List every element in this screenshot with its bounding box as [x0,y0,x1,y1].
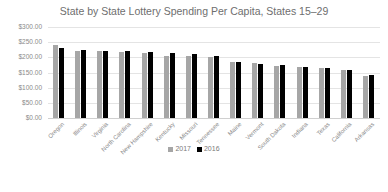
bar-2016 [148,52,153,118]
bar-group [269,27,291,118]
bar-2017 [252,63,257,118]
x-tick-label: California [331,121,353,143]
bar-2017 [230,62,235,118]
legend: 2017 2016 [0,145,388,152]
bar-2017 [297,67,302,118]
bar-group [137,27,159,118]
bar-2017 [53,45,58,118]
x-tick-label: Indiana [291,121,309,139]
bar-2016 [280,65,285,118]
x-tick-label: Arkansas [353,121,375,143]
x-tick-label: Kentucky [154,121,176,143]
bar-group [114,27,136,118]
bar-2016 [170,53,175,118]
x-tick-label: Oregon [47,121,65,139]
bar-2016 [59,48,64,118]
legend-label-2016: 2016 [204,145,220,152]
y-tick-label: $50.00 [0,99,42,106]
bar-group [203,27,225,118]
bar-group [181,27,203,118]
legend-item-2017: 2017 [168,145,191,152]
legend-swatch-2017 [168,147,173,152]
legend-item-2016: 2016 [197,145,220,152]
bar-group [70,27,92,118]
bar-2016 [258,64,263,118]
x-tick-label: Maine [227,121,243,137]
bar-group [48,27,70,118]
bar-2016 [236,62,241,118]
bar-2017 [274,66,279,118]
bar-2017 [164,56,169,118]
bar-2017 [97,51,102,118]
x-tick-label: Virginia [91,121,109,139]
bar-2017 [142,53,147,118]
bar-2017 [319,68,324,118]
chart-title: State by State Lottery Spending Per Capi… [0,5,388,17]
bar-2017 [341,70,346,118]
bar-2016 [303,67,308,118]
y-tick-label: $150.00 [0,69,42,76]
x-tick-label: Texas [316,121,331,136]
plot-area [48,27,380,118]
bar-2016 [81,50,86,118]
y-tick-label: $300.00 [0,23,42,30]
bar-group [336,27,358,118]
y-tick-label: $200.00 [0,53,42,60]
bar-group [291,27,313,118]
bar-group [314,27,336,118]
bar-group [225,27,247,118]
x-tick-label: Tennessee [195,121,220,146]
bar-2016 [125,51,130,118]
bar-group [358,27,380,118]
bar-2016 [103,51,108,118]
bar-2017 [119,52,124,118]
legend-swatch-2016 [197,147,202,152]
bar-2017 [208,57,213,118]
bar-group [92,27,114,118]
y-tick-label: $100.00 [0,84,42,91]
bar-2016 [369,75,374,118]
bar-2017 [186,56,191,118]
bar-2017 [363,76,368,118]
y-tick-label: $250.00 [0,38,42,45]
gridline [48,118,380,119]
x-tick-label: Missouri [178,121,198,141]
x-tick-label: Vermont [244,121,264,141]
x-tick-label: Illinois [71,121,87,137]
y-tick-label: $0.00 [0,114,42,121]
legend-label-2017: 2017 [175,145,191,152]
bar-2016 [347,70,352,118]
bar-group [159,27,181,118]
bar-2017 [75,51,80,118]
bar-2016 [325,68,330,118]
bar-group [247,27,269,118]
bar-2016 [214,56,219,118]
bar-2016 [192,54,197,118]
